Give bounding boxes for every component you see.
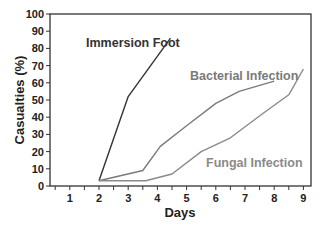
y-tick-label: 0: [38, 180, 44, 192]
x-axis-ticks: 123456789: [55, 186, 306, 204]
y-tick-label: 10: [32, 163, 44, 175]
series-label-fungal-infection: Fungal Infection: [206, 156, 303, 170]
x-axis-title: Days: [164, 205, 195, 220]
series-line-immersion-foot: [99, 38, 171, 181]
series-labels: Immersion FootBacterial InfectionFungal …: [86, 36, 303, 170]
x-tick-label: 1: [67, 192, 73, 204]
y-tick-label: 80: [32, 42, 44, 54]
x-tick-label: 2: [96, 192, 102, 204]
y-tick-label: 100: [26, 8, 44, 20]
x-tick-label: 7: [242, 192, 248, 204]
y-tick-label: 40: [32, 111, 44, 123]
y-tick-label: 70: [32, 60, 44, 72]
y-tick-label: 60: [32, 77, 44, 89]
y-tick-label: 90: [32, 25, 44, 37]
y-tick-label: 30: [32, 128, 44, 140]
line-chart: 0102030405060708090100 123456789 Immersi…: [0, 0, 329, 232]
x-tick-label: 8: [271, 192, 277, 204]
y-axis-title: Casualties (%): [12, 56, 27, 145]
y-tick-label: 20: [32, 146, 44, 158]
x-tick-label: 6: [213, 192, 219, 204]
x-tick-label: 3: [125, 192, 131, 204]
x-tick-label: 4: [154, 192, 161, 204]
y-tick-label: 50: [32, 94, 44, 106]
series-label-immersion-foot: Immersion Foot: [86, 36, 181, 50]
series-label-bacterial-infection: Bacterial Infection: [190, 69, 298, 83]
y-axis-ticks: 0102030405060708090100: [26, 8, 50, 192]
x-tick-label: 5: [184, 192, 190, 204]
x-tick-label: 9: [300, 192, 306, 204]
